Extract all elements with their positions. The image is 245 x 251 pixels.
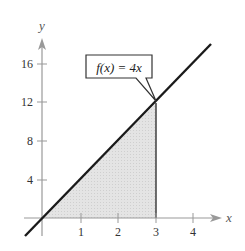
function-label: f(x) = 4x [96, 60, 142, 75]
x-axis-label: x [225, 210, 232, 225]
y-axis [37, 38, 47, 236]
chart: 1 2 3 4 x 4 8 12 16 y f(x) = 4x [0, 0, 245, 251]
x-tick-3: 3 [153, 225, 159, 239]
x-tick-2: 2 [115, 225, 121, 239]
y-tick-8: 8 [27, 134, 33, 148]
x-tick-1: 1 [78, 225, 84, 239]
y-axis-label: y [37, 18, 45, 33]
y-tick-12: 12 [21, 95, 33, 109]
y-tick-16: 16 [21, 57, 33, 71]
x-tick-4: 4 [190, 225, 196, 239]
y-tick-4: 4 [27, 173, 33, 187]
